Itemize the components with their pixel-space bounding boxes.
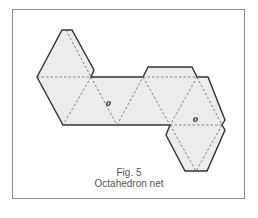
figure-number: Fig. 5	[0, 167, 258, 178]
net-outline	[37, 30, 225, 171]
face-label-lower: o	[193, 113, 198, 124]
figure-title: Octahedron net	[0, 178, 258, 189]
face-label-main: o	[106, 97, 111, 108]
